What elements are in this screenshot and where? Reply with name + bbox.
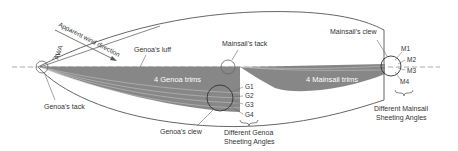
g1-label: G1 <box>245 83 254 90</box>
genoa-tack-label: Genoa's tack <box>44 103 85 110</box>
g2-label: G2 <box>245 92 254 99</box>
mainsail-angles-label-line2: Sheeting Angles <box>376 114 427 122</box>
awa-label: AWA <box>52 44 64 60</box>
genoa-angles-label-line2: Sheeting Angles <box>224 138 275 146</box>
mainsail-angles-label-line1: Different Mainsail <box>374 105 428 112</box>
sail-trim-diagram: Apparent wind direction AWA Genoa's tack… <box>0 0 458 151</box>
g4-label: G4 <box>245 111 254 118</box>
genoa-luff-label: Genoa's luff <box>134 46 171 53</box>
genoa-luff-leader <box>140 55 146 67</box>
genoa-trims-label: 4 Genoa trims <box>154 75 201 84</box>
genoa-angles-label-line1: Different Genoa <box>224 129 273 136</box>
genoa-angles-bracket <box>240 120 258 126</box>
m1-label: M1 <box>401 45 410 52</box>
mainsail-tack-label: Mainsail's tack <box>222 40 268 47</box>
mainsail-trims-label: 4 Mainsail trims <box>306 75 358 84</box>
genoa-clew-leader <box>197 110 213 126</box>
genoa-clew-label: Genoa's clew <box>160 128 203 135</box>
m3-label: M3 <box>407 67 416 74</box>
g3-label: G3 <box>245 101 254 108</box>
mainsail-clew-label: Mainsail's clew <box>330 28 377 35</box>
m4-label: M4 <box>400 78 409 85</box>
mainsail-clew-leader <box>377 40 387 56</box>
mainsail-position-labels: M1 M2 M3 M4 <box>395 45 416 85</box>
genoa-tack-leader <box>44 72 55 100</box>
m2-label: M2 <box>407 56 416 63</box>
mainsail-tack-leader <box>232 50 238 60</box>
mainsail-angles-bracket <box>395 90 413 96</box>
